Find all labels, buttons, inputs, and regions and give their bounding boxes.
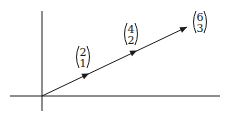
vector-line: [42, 27, 187, 96]
arrowhead-icon: [179, 24, 188, 32]
vector-bottom: 1: [80, 57, 87, 70]
vector-label-2: 4 2: [125, 23, 138, 47]
vector-diagram: 2 1 4 2 6 3: [0, 0, 230, 115]
vector-bottom: 2: [128, 34, 135, 47]
vector-label-3: 6 3: [194, 11, 207, 35]
arrowhead-icon: [129, 48, 138, 56]
arrowhead-icon: [81, 71, 90, 79]
vector-label-1: 2 1: [77, 46, 90, 70]
vector-bottom: 3: [197, 22, 204, 35]
